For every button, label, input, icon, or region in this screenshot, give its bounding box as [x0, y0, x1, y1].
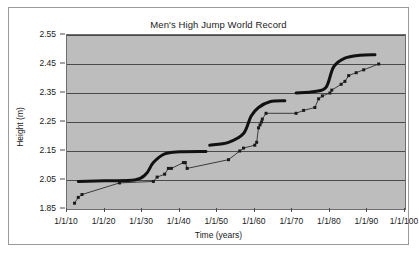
y-tick-label: 2.35 [39, 87, 56, 97]
x-tick-label: 1/1/80 [317, 216, 341, 226]
data-point-marker [261, 118, 264, 121]
data-point-marker [227, 158, 230, 161]
series-layer [67, 35, 405, 209]
x-tick-label: 1/1/30 [129, 216, 153, 226]
y-tick-label: 2.55 [39, 29, 56, 39]
data-point-marker [77, 196, 80, 199]
chart-title: Men's High Jump World Record [9, 19, 419, 30]
data-point-marker [170, 167, 173, 170]
x-tick-label: 1/1/50 [204, 216, 228, 226]
x-tick-mark [66, 208, 67, 212]
data-point-marker [186, 167, 189, 170]
data-point-marker [260, 121, 263, 124]
data-point-marker [184, 161, 187, 164]
y-tick-mark [60, 208, 65, 209]
y-axis-title: Height (m) [15, 92, 25, 162]
data-point-marker [238, 150, 241, 153]
x-tick-label: 1/1/10 [54, 216, 78, 226]
data-point-marker [377, 63, 380, 66]
y-tick-mark [60, 179, 65, 180]
y-tick-mark [60, 63, 65, 64]
data-point-marker [328, 92, 331, 95]
y-tick-label: 2.45 [39, 58, 56, 68]
data-point-marker [156, 176, 159, 179]
data-point-marker [313, 106, 316, 109]
data-point-marker [242, 147, 245, 150]
data-point-marker [259, 123, 262, 126]
data-point-marker [73, 202, 76, 205]
x-tick-mark [291, 208, 292, 212]
data-point-marker [81, 193, 84, 196]
x-tick-mark [141, 208, 142, 212]
data-point-marker [167, 167, 170, 170]
plot-area [66, 34, 406, 210]
x-axis-title: Time (years) [9, 230, 419, 240]
x-tick-mark [216, 208, 217, 212]
x-tick-mark [404, 208, 405, 212]
data-point-marker [347, 74, 350, 77]
fitted-curve-segment [296, 55, 375, 93]
fitted-curve-segment [210, 101, 285, 145]
y-tick-mark [60, 150, 65, 151]
chart-frame: Men's High Jump World Record 1.852.052.1… [8, 7, 409, 245]
data-point-marker [163, 173, 166, 176]
x-axis: 1/1/101/1/201/1/301/1/401/1/501/1/601/1/… [9, 212, 419, 232]
data-point-marker [317, 97, 320, 100]
data-point-marker [295, 112, 298, 115]
x-tick-label: 1/1/100 [390, 216, 418, 226]
x-tick-label: 1/1/40 [167, 216, 191, 226]
data-point-marker [152, 180, 155, 183]
data-point-marker [302, 109, 305, 112]
data-point-marker [362, 68, 365, 71]
data-point-marker [355, 71, 358, 74]
data-point-marker [343, 80, 346, 83]
x-tick-mark [254, 208, 255, 212]
y-tick-label: 2.25 [39, 116, 56, 126]
y-tick-mark [60, 92, 65, 93]
x-tick-label: 1/1/20 [92, 216, 116, 226]
data-point-marker [265, 112, 268, 115]
data-point-marker [330, 89, 333, 92]
x-tick-mark [329, 208, 330, 212]
y-tick-label: 2.15 [39, 145, 56, 155]
x-tick-mark [179, 208, 180, 212]
data-point-marker [257, 126, 260, 129]
data-point-marker [340, 83, 343, 86]
data-point-marker [255, 141, 258, 144]
x-tick-label: 1/1/60 [242, 216, 266, 226]
x-tick-mark [366, 208, 367, 212]
x-tick-label: 1/1/90 [355, 216, 379, 226]
data-point-marker [253, 144, 256, 147]
y-tick-label: 2.05 [39, 174, 56, 184]
data-point-marker [321, 94, 324, 97]
y-tick-mark [60, 34, 65, 35]
x-tick-mark [104, 208, 105, 212]
y-tick-mark [60, 121, 65, 122]
x-tick-label: 1/1/70 [280, 216, 304, 226]
